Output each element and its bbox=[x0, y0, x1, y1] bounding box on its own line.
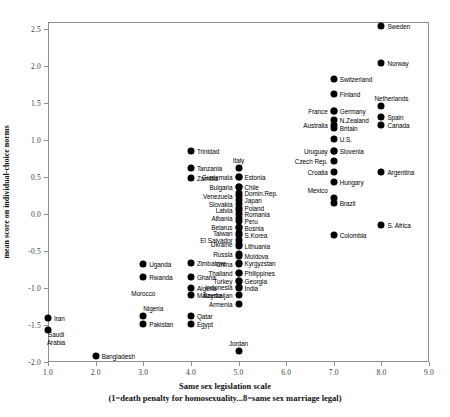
point-label: Venezuela bbox=[203, 192, 232, 199]
y-tick-label: 1.0 bbox=[31, 136, 41, 145]
point-label: Pakistan bbox=[149, 320, 173, 327]
data-point bbox=[140, 274, 147, 281]
x-tick-mark bbox=[286, 362, 287, 366]
point-label: Morocco bbox=[131, 289, 155, 296]
x-tick-label: 8.0 bbox=[376, 368, 386, 377]
point-label: Japan bbox=[245, 197, 262, 204]
x-tick-label: 2.0 bbox=[91, 368, 101, 377]
y-tick-label: -2.0 bbox=[28, 358, 41, 367]
point-label: Russia bbox=[213, 251, 232, 258]
point-label: Egypt bbox=[197, 320, 213, 327]
point-label: Iran bbox=[54, 314, 65, 321]
y-tick-mark bbox=[44, 177, 48, 178]
y-axis-title: mean score on individual-choice norms bbox=[2, 125, 11, 258]
data-point bbox=[235, 301, 242, 308]
y-tick-label: -0.5 bbox=[28, 247, 41, 256]
point-label: Zimbabwe bbox=[197, 259, 226, 266]
point-label: Australia bbox=[303, 121, 327, 128]
x-tick-mark bbox=[429, 362, 430, 366]
point-label: Georgia bbox=[245, 277, 267, 284]
data-point bbox=[235, 292, 242, 299]
point-label: Tanzania bbox=[197, 165, 222, 172]
point-label: Argentina bbox=[387, 169, 414, 176]
point-label: Switzerland bbox=[340, 75, 372, 82]
x-tick-label: 1.0 bbox=[43, 368, 53, 377]
x-axis-title-sub: (1=death penalty for homosexuality...8=s… bbox=[0, 392, 450, 404]
point-label: Uganda bbox=[149, 261, 171, 268]
x-tick-mark bbox=[143, 362, 144, 366]
point-label: Jordan bbox=[229, 339, 248, 346]
point-label: Bulgaria bbox=[209, 183, 232, 190]
point-label: Slovenia bbox=[340, 147, 364, 154]
point-label: Canada bbox=[387, 122, 409, 129]
data-point bbox=[378, 169, 385, 176]
point-label: Finland bbox=[340, 90, 361, 97]
x-axis-title-main: Same sex legislation scale bbox=[0, 380, 450, 392]
point-label: Hungary bbox=[340, 178, 364, 185]
point-label: U.S. bbox=[340, 135, 352, 142]
point-label: Colombia bbox=[340, 231, 367, 238]
x-tick-label: 7.0 bbox=[329, 368, 339, 377]
data-point bbox=[92, 353, 99, 360]
data-point bbox=[330, 121, 337, 128]
data-point bbox=[140, 261, 147, 268]
data-point bbox=[187, 148, 194, 155]
point-label: Spain bbox=[387, 114, 403, 121]
x-tick-mark bbox=[96, 362, 97, 366]
data-point bbox=[378, 59, 385, 66]
data-point bbox=[378, 122, 385, 129]
point-label: Ghana bbox=[197, 274, 216, 281]
point-label: Britain bbox=[340, 124, 358, 131]
y-tick-mark bbox=[44, 288, 48, 289]
data-point bbox=[330, 107, 337, 114]
y-tick-label: 0.0 bbox=[31, 210, 41, 219]
data-point bbox=[235, 252, 242, 259]
data-point bbox=[330, 135, 337, 142]
data-point bbox=[235, 241, 242, 248]
x-tick-label: 4.0 bbox=[186, 368, 196, 377]
data-point bbox=[330, 147, 337, 154]
point-label: Kyrgyzstan bbox=[245, 259, 276, 266]
data-point bbox=[330, 157, 337, 164]
x-tick-label: 9.0 bbox=[424, 368, 434, 377]
scatter-plot-figure: 2.52.01.51.00.50.0-0.5-1.0-1.5-2.01.02.0… bbox=[0, 0, 450, 417]
data-point bbox=[140, 313, 147, 320]
data-point bbox=[378, 103, 385, 110]
data-point bbox=[140, 320, 147, 327]
point-label: Rwanda bbox=[149, 274, 172, 281]
point-label: Italy bbox=[233, 157, 244, 164]
data-point bbox=[235, 347, 242, 354]
point-label: Sweden bbox=[387, 22, 410, 29]
data-point bbox=[235, 259, 242, 266]
point-label: Zambia bbox=[197, 174, 218, 181]
point-label: India bbox=[245, 285, 259, 292]
data-point bbox=[330, 178, 337, 185]
point-label: France bbox=[308, 107, 328, 114]
point-label: Netherlands bbox=[374, 95, 408, 102]
y-tick-label: -1.0 bbox=[28, 284, 41, 293]
y-tick-mark bbox=[44, 251, 48, 252]
point-label: Algeria bbox=[197, 285, 217, 292]
x-tick-label: 5.0 bbox=[234, 368, 244, 377]
x-tick-mark bbox=[334, 362, 335, 366]
point-label: Lithuania bbox=[245, 242, 271, 249]
data-point bbox=[187, 313, 194, 320]
point-label: Nigeria bbox=[143, 305, 163, 312]
data-point bbox=[187, 259, 194, 266]
data-point bbox=[330, 75, 337, 82]
x-tick-mark bbox=[381, 362, 382, 366]
point-label: Uruguay bbox=[304, 147, 328, 154]
data-point bbox=[378, 22, 385, 29]
point-label: S.Korea bbox=[245, 231, 268, 238]
y-tick-label: 2.0 bbox=[31, 62, 41, 71]
x-tick-mark bbox=[48, 362, 49, 366]
x-axis-title: Same sex legislation scale (1=death pena… bbox=[0, 380, 450, 404]
point-label: Philippines bbox=[245, 270, 275, 277]
y-tick-label: 2.5 bbox=[31, 25, 41, 34]
point-label: Croatia bbox=[307, 169, 327, 176]
point-label: Moldova bbox=[245, 252, 269, 259]
data-point bbox=[187, 320, 194, 327]
y-tick-mark bbox=[44, 29, 48, 30]
point-label: S. Africa bbox=[387, 221, 410, 228]
y-tick-label: -1.5 bbox=[28, 321, 41, 330]
